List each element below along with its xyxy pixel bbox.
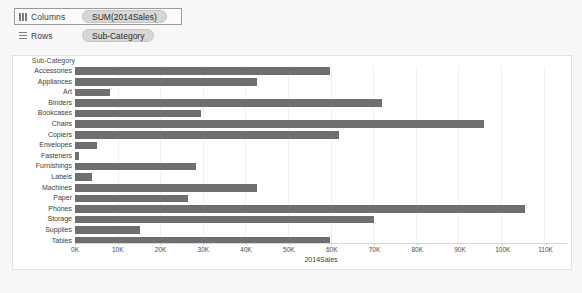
bar-row: Art <box>13 87 573 98</box>
rows-grid-icon <box>19 32 27 40</box>
bar-row-label: Copiers <box>13 130 75 141</box>
x-tick-30K: 30K <box>198 243 210 253</box>
bar-row: Storage <box>13 214 573 225</box>
bar-track <box>75 214 573 225</box>
x-axis-ticks: 0K10K20K30K40K50K60K70K80K90K100K110K <box>75 243 567 257</box>
shelf-area: Columns SUM(2014Sales) Rows Sub-Category <box>0 8 582 46</box>
bar-row-label: Appliances <box>13 77 75 88</box>
bar-row: Binders <box>13 98 573 109</box>
x-tick-40K: 40K <box>240 243 252 253</box>
chart-panel: Sub-Category AccessoriesAppliancesArtBin… <box>12 55 572 270</box>
columns-shelf-label-text: Columns <box>31 12 65 22</box>
columns-shelf[interactable]: Columns SUM(2014Sales) <box>0 8 582 25</box>
bar-row: Accessories <box>13 66 573 77</box>
bar-row-label: Storage <box>13 214 75 225</box>
bar-track <box>75 225 573 236</box>
x-tick-10K: 10K <box>112 243 124 253</box>
bar-binders[interactable] <box>75 99 382 107</box>
bar-copiers[interactable] <box>75 131 339 139</box>
bar-row-label: Chairs <box>13 119 75 130</box>
pill-sub-category[interactable]: Sub-Category <box>82 29 154 42</box>
bar-track <box>75 98 573 109</box>
bar-track <box>75 108 573 119</box>
bar-art[interactable] <box>75 89 110 97</box>
x-tick-80K: 80K <box>411 243 423 253</box>
columns-grid-icon <box>19 13 27 21</box>
bar-chart-plot: AccessoriesAppliancesArtBindersBookcases… <box>13 66 573 246</box>
x-tick-90K: 90K <box>454 243 466 253</box>
bar-row-label: Bookcases <box>13 108 75 119</box>
x-tick-110K: 110K <box>538 243 553 253</box>
bar-track <box>75 130 573 141</box>
x-tick-70K: 70K <box>369 243 381 253</box>
bar-row-label: Phones <box>13 204 75 215</box>
bar-row: Supplies <box>13 225 573 236</box>
bar-row: Machines <box>13 183 573 194</box>
bar-row: Copiers <box>13 130 573 141</box>
bar-phones[interactable] <box>75 205 525 213</box>
pill-sum-2014sales[interactable]: SUM(2014Sales) <box>82 10 167 23</box>
bar-storage[interactable] <box>75 216 374 224</box>
bar-row-label: Art <box>13 87 75 98</box>
x-axis-title: 2014Sales <box>75 256 567 263</box>
rows-shelf-label: Rows <box>19 31 81 41</box>
bar-supplies[interactable] <box>75 226 140 234</box>
bar-track <box>75 140 573 151</box>
bar-bookcases[interactable] <box>75 110 201 118</box>
bar-row: Bookcases <box>13 108 573 119</box>
bar-track <box>75 193 573 204</box>
bar-appliances[interactable] <box>75 78 257 86</box>
bar-labels[interactable] <box>75 173 92 181</box>
bar-track <box>75 183 573 194</box>
bar-track <box>75 204 573 215</box>
rows-shelf-label-text: Rows <box>31 31 53 41</box>
bar-row: Fasteners <box>13 151 573 162</box>
bar-row-label: Paper <box>13 193 75 204</box>
x-tick-60K: 60K <box>326 243 338 253</box>
bar-row-label: Labels <box>13 172 75 183</box>
x-tick-20K: 20K <box>155 243 167 253</box>
tableau-worksheet: Columns SUM(2014Sales) Rows Sub-Category… <box>0 0 582 293</box>
bar-accessories[interactable] <box>75 67 330 75</box>
bar-chairs[interactable] <box>75 120 484 128</box>
bar-track <box>75 77 573 88</box>
bar-row-label: Fasteners <box>13 151 75 162</box>
bar-paper[interactable] <box>75 195 188 203</box>
bar-track <box>75 151 573 162</box>
bar-row-label: Supplies <box>13 225 75 236</box>
bar-row: Appliances <box>13 77 573 88</box>
x-tick-0K: 0K <box>71 243 79 253</box>
bar-machines[interactable] <box>75 184 257 192</box>
bar-row-label: Envelopes <box>13 140 75 151</box>
y-axis-title: Sub-Category <box>13 57 75 64</box>
bar-envelopes[interactable] <box>75 142 97 150</box>
bar-row-label: Binders <box>13 98 75 109</box>
bar-row: Phones <box>13 204 573 215</box>
bar-row-label: Accessories <box>13 66 75 77</box>
bar-row: Paper <box>13 193 573 204</box>
bar-track <box>75 119 573 130</box>
bar-fasteners[interactable] <box>75 152 79 160</box>
bar-row: Chairs <box>13 119 573 130</box>
x-tick-50K: 50K <box>283 243 295 253</box>
bar-track <box>75 66 573 77</box>
x-tick-100K: 100K <box>495 243 510 253</box>
bar-track <box>75 87 573 98</box>
columns-shelf-label: Columns <box>19 12 81 22</box>
bar-furnishings[interactable] <box>75 163 196 171</box>
bar-row: Envelopes <box>13 140 573 151</box>
bar-row: Furnishings <box>13 161 573 172</box>
bar-row: Labels <box>13 172 573 183</box>
bar-row-label: Furnishings <box>13 161 75 172</box>
bar-track <box>75 172 573 183</box>
x-axis: 0K10K20K30K40K50K60K70K80K90K100K110K 20… <box>13 243 573 269</box>
bar-track <box>75 161 573 172</box>
rows-shelf[interactable]: Rows Sub-Category <box>0 27 582 44</box>
bar-row-label: Machines <box>13 183 75 194</box>
